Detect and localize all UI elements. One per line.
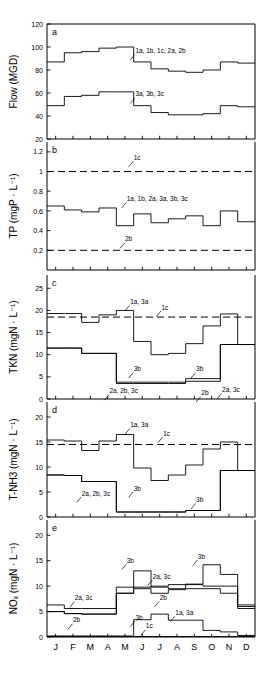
annotation-e-6: 3b bbox=[135, 614, 143, 621]
month-label-F: F bbox=[70, 642, 76, 652]
y-tick-label-b: 0.4 bbox=[33, 227, 43, 234]
annotation-b-0: 1c bbox=[134, 154, 142, 161]
annotation-leader-e-1 bbox=[193, 560, 198, 566]
y-tick-label-c: 15 bbox=[35, 329, 43, 336]
annotation-leader-d-1 bbox=[158, 437, 163, 443]
month-label-M: M bbox=[87, 642, 95, 652]
annotation-leader-e-8 bbox=[141, 630, 146, 636]
panel-d: 05101520d1a, 3a1c2a, 2b, 3c3b3b bbox=[35, 402, 255, 521]
annotation-leader-e-6 bbox=[130, 621, 135, 627]
annotation-leader-c-1 bbox=[156, 311, 161, 317]
y-tick-label-a: 120 bbox=[31, 21, 43, 28]
month-label-M: M bbox=[121, 642, 129, 652]
annotation-c-1: 1c bbox=[161, 304, 169, 311]
y-tick-label-b: 0.6 bbox=[33, 208, 43, 215]
annotation-leader-b-2 bbox=[120, 243, 125, 249]
y-tick-label-a: 60 bbox=[35, 90, 43, 97]
panel-frame-d bbox=[47, 402, 255, 517]
month-label-O: O bbox=[208, 642, 215, 652]
annotation-leader-b-0 bbox=[129, 161, 134, 167]
annotation-leader-e-3 bbox=[148, 580, 153, 586]
y-tick-label-a: 100 bbox=[31, 44, 43, 51]
annotation-c-3: 3b bbox=[196, 365, 204, 372]
annotation-e-1: 3b bbox=[198, 553, 206, 560]
annotation-e-8: 1c bbox=[146, 622, 154, 629]
month-label-N: N bbox=[226, 642, 233, 652]
month-label-J: J bbox=[53, 642, 58, 652]
annotation-b-1: 1a, 1b, 2a, 3a, 3b, 3c bbox=[127, 195, 189, 202]
annotation-leader-c-6 bbox=[217, 393, 222, 399]
annotation-c-4: 2a, 2b, 3c bbox=[109, 387, 138, 394]
annotation-e-0: 3b bbox=[127, 557, 135, 564]
y-axis-title-c: TKN (mgN · L⁻¹) bbox=[8, 300, 19, 373]
annotation-leader-c-2 bbox=[129, 373, 134, 379]
month-label-J: J bbox=[157, 642, 162, 652]
y-tick-label-c: 0 bbox=[39, 396, 43, 403]
series-b-0 bbox=[47, 206, 255, 226]
panel-letter-c: c bbox=[52, 278, 57, 288]
y-tick-label-c: 5 bbox=[39, 373, 43, 380]
y-tick-label-a: 20 bbox=[35, 136, 43, 143]
y-tick-label-a: 80 bbox=[35, 67, 43, 74]
annotation-leader-d-2 bbox=[77, 497, 82, 503]
annotation-a-1: 3a, 3b, 3c bbox=[135, 90, 164, 97]
panel-frame-a bbox=[47, 24, 255, 139]
annotation-e-7: 1a, 3a bbox=[175, 609, 193, 616]
y-tick-label-c: 10 bbox=[35, 351, 43, 358]
panel-b: 0.20.40.60.811.2b1c1a, 1b, 2a, 3a, 3b, 3… bbox=[33, 142, 255, 270]
annotation-d-3: 3b bbox=[134, 485, 142, 492]
month-label-A: A bbox=[105, 642, 111, 652]
y-tick-label-d: 10 bbox=[35, 464, 43, 471]
y-tick-label-b: 1 bbox=[39, 168, 43, 175]
panel-a: 20406080100120a1a, 1b, 1c, 2a, 2b3a, 3b,… bbox=[31, 21, 255, 143]
annotation-leader-e-0 bbox=[122, 564, 127, 570]
figure-container: 20406080100120a1a, 1b, 1c, 2a, 2b3a, 3b,… bbox=[0, 0, 267, 676]
panel-letter-d: d bbox=[52, 405, 57, 415]
annotation-leader-e-4 bbox=[68, 624, 73, 630]
annotation-d-1: 1c bbox=[163, 430, 171, 437]
series-e-2 bbox=[47, 589, 255, 614]
y-tick-label-b: 0.8 bbox=[33, 188, 43, 195]
annotation-e-4: 2b bbox=[73, 616, 81, 623]
multi-panel-timeseries-figure: 20406080100120a1a, 1b, 1c, 2a, 2b3a, 3b,… bbox=[0, 0, 267, 676]
y-axis-title-d: T-NH3 (mgN · L⁻¹) bbox=[8, 418, 19, 500]
y-tick-label-b: 0.2 bbox=[33, 247, 43, 254]
month-label-A: A bbox=[174, 642, 180, 652]
month-label-S: S bbox=[191, 642, 197, 652]
y-axis-title-b: TP (mgP · L⁻¹) bbox=[8, 173, 19, 238]
annotation-leader-d-3 bbox=[129, 492, 134, 498]
y-tick-label-e: 20 bbox=[35, 532, 43, 539]
annotation-e-2: 2a, 3c bbox=[75, 594, 93, 601]
y-tick-label-e: 5 bbox=[39, 608, 43, 615]
month-label-J: J bbox=[140, 642, 145, 652]
annotation-d-0: 1a, 3a bbox=[130, 421, 148, 428]
annotation-leader-e-2 bbox=[70, 602, 75, 608]
y-tick-label-e: 10 bbox=[35, 583, 43, 590]
annotation-leader-d-0 bbox=[125, 429, 130, 435]
annotation-c-5: 2b bbox=[201, 389, 209, 396]
annotation-leader-a-1 bbox=[130, 98, 135, 104]
panel-c: 0510152025c1a, 3a1c3b3b2a, 2b, 3c2b2a, 3… bbox=[35, 275, 255, 403]
annotation-leader-e-7 bbox=[170, 616, 175, 622]
annotation-a-0: 1a, 1b, 1c, 2a, 2b bbox=[135, 47, 186, 54]
annotation-e-5: 2b bbox=[160, 594, 168, 601]
y-tick-label-c: 20 bbox=[35, 307, 43, 314]
annotation-leader-c-3 bbox=[191, 373, 196, 379]
y-tick-label-d: 20 bbox=[35, 414, 43, 421]
panel-e: 05101520e3b3b2a, 3c2a, 3c2b2b3b1a, 3a1c bbox=[35, 520, 255, 641]
annotation-d-4: 3b bbox=[196, 496, 204, 503]
series-d-0 bbox=[47, 435, 255, 481]
annotation-b-2: 2b bbox=[125, 235, 133, 242]
y-axis-title-a: Flow (MGD) bbox=[8, 55, 19, 109]
panel-letter-e: e bbox=[52, 523, 57, 533]
annotation-leader-b-1 bbox=[122, 203, 127, 209]
annotation-d-2: 2a, 2b, 3c bbox=[82, 490, 111, 497]
annotation-leader-a-0 bbox=[130, 54, 135, 60]
annotation-c-2: 3b bbox=[134, 365, 142, 372]
y-tick-label-d: 5 bbox=[39, 489, 43, 496]
annotation-leader-d-4 bbox=[191, 504, 196, 510]
panel-letter-a: a bbox=[52, 27, 57, 37]
month-label-D: D bbox=[243, 642, 250, 652]
panel-frame-c bbox=[47, 275, 255, 399]
annotation-leader-e-5 bbox=[155, 601, 160, 607]
